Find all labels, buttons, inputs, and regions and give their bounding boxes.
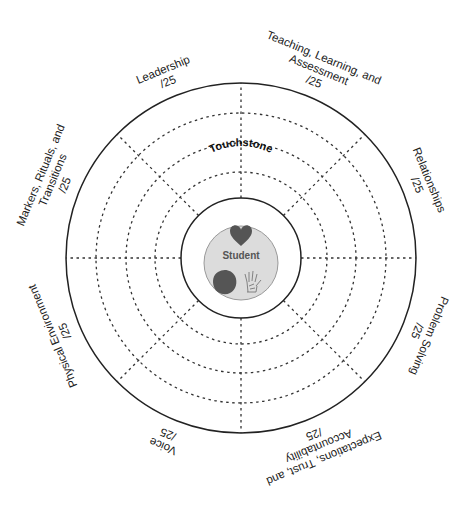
- sector-label-teaching-learning-and-assessment: Teaching, Learning, andAssessment/25: [255, 28, 383, 110]
- sector-label-expectations-trust-and-accountability: Expectations, Trust, andAccountability/2…: [255, 405, 384, 487]
- touchstone-wheel-diagram: Touchstone Student Leadership/25Teaching…: [0, 0, 464, 509]
- sector-label-physical-environment: Physical Environment/25: [26, 277, 92, 389]
- brain-icon: [213, 270, 236, 294]
- spoke-2: [283, 134, 364, 215]
- sector-label-problem-solving: Problem Solving/25: [396, 290, 451, 377]
- center-label: Student: [222, 250, 260, 261]
- spoke-6: [117, 300, 198, 381]
- spoke-8: [117, 134, 198, 215]
- sector-label-voice: Voice/25: [148, 424, 184, 458]
- spoke-4: [283, 300, 364, 381]
- sector-label-markers-rituals-and-transitions: Markers, Rituals, andTransitions/25: [14, 122, 91, 237]
- sector-label-relationships: Relationships/25: [399, 146, 449, 220]
- center-title: Touchstone: [207, 136, 275, 155]
